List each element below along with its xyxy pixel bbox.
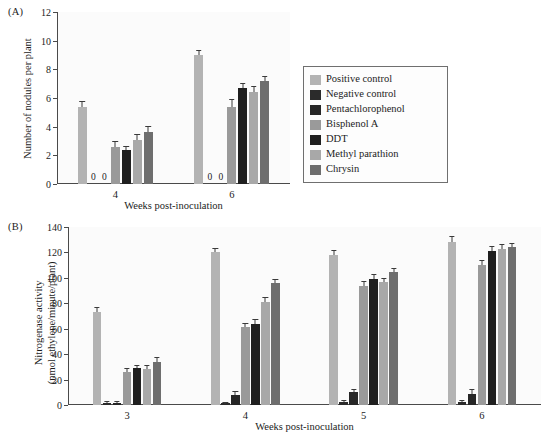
y-axis-tick xyxy=(64,329,68,330)
legend-item[interactable]: Positive control xyxy=(310,72,440,87)
panel-a-plot-area: 024681012004006 xyxy=(57,12,290,184)
y-axis-tick xyxy=(64,252,68,253)
error-bar-cap xyxy=(351,389,356,390)
error-bar xyxy=(127,369,128,372)
error-bar xyxy=(253,87,254,92)
legend-item[interactable]: Bisphenol A xyxy=(310,117,440,132)
error-bar-cap xyxy=(134,134,140,135)
bar xyxy=(133,140,142,184)
error-bar xyxy=(451,237,452,242)
bar xyxy=(389,272,398,406)
bar xyxy=(478,265,487,405)
error-bar-cap xyxy=(341,400,346,401)
x-axis-group-label: 3 xyxy=(125,410,130,421)
error-bar xyxy=(231,100,232,106)
error-bar-cap xyxy=(124,368,129,369)
legend: Positive controlNegative controlPentachl… xyxy=(303,66,448,183)
bar xyxy=(260,81,269,184)
error-bar-cap xyxy=(243,323,248,324)
y-axis-tick-label: 80 xyxy=(52,298,62,309)
zero-value-label: 0 xyxy=(207,172,212,182)
error-bar xyxy=(245,324,246,328)
error-bar-cap xyxy=(229,99,235,100)
bar xyxy=(103,403,112,405)
y-axis-tick-label: 6 xyxy=(46,93,51,104)
y-axis-tick xyxy=(53,41,57,42)
bar xyxy=(194,55,203,184)
error-bar xyxy=(115,142,116,147)
x-axis-group-label: 4 xyxy=(113,189,118,200)
y-axis-tick xyxy=(64,380,68,381)
x-axis-group-label: 5 xyxy=(361,410,366,421)
y-axis-tick-label: 2 xyxy=(46,150,51,161)
error-bar-cap xyxy=(213,248,218,249)
error-bar-cap xyxy=(123,146,129,147)
error-bar-cap xyxy=(79,101,85,102)
bar xyxy=(241,327,250,405)
bar xyxy=(508,247,517,405)
legend-item[interactable]: Methyl parathion xyxy=(310,147,440,162)
y-axis-tick xyxy=(64,227,68,228)
bar xyxy=(211,252,220,405)
error-bar xyxy=(235,392,236,395)
error-bar-cap xyxy=(233,391,238,392)
bar xyxy=(123,372,132,405)
zero-value-label: 0 xyxy=(218,172,223,182)
error-bar xyxy=(353,390,354,393)
error-bar xyxy=(343,401,344,402)
panel-a-ylabel: Number of nodules per plant xyxy=(21,24,34,174)
error-bar xyxy=(471,390,472,393)
error-bar-cap xyxy=(331,250,336,251)
legend-item[interactable]: DDT xyxy=(310,132,440,147)
y-axis-tick xyxy=(53,12,57,13)
error-bar-cap xyxy=(499,244,504,245)
legend-item[interactable]: Pentachlorophenol xyxy=(310,102,440,117)
error-bar-cap xyxy=(381,278,386,279)
legend-item[interactable]: Negative control xyxy=(310,87,440,102)
zero-value-label: 0 xyxy=(91,172,96,182)
error-bar-cap xyxy=(240,83,246,84)
error-bar xyxy=(97,308,98,312)
legend-item[interactable]: Chrysin xyxy=(310,162,440,177)
y-axis-tick-label: 40 xyxy=(52,349,62,360)
bar xyxy=(251,324,260,405)
bar xyxy=(221,403,230,405)
bar xyxy=(271,283,280,405)
error-bar-cap xyxy=(469,389,474,390)
y-axis-tick-label: 60 xyxy=(52,323,62,334)
y-axis-tick xyxy=(53,155,57,156)
y-axis-tick-label: 4 xyxy=(46,121,51,132)
y-axis-tick xyxy=(53,69,57,70)
error-bar xyxy=(501,245,502,249)
error-bar xyxy=(148,127,149,132)
error-bar-cap xyxy=(253,319,258,320)
error-bar-cap xyxy=(154,357,159,358)
error-bar xyxy=(333,251,334,255)
bar xyxy=(329,255,338,405)
y-axis-tick-label: 20 xyxy=(52,374,62,385)
error-bar-cap xyxy=(263,297,268,298)
error-bar-cap xyxy=(391,268,396,269)
error-bar xyxy=(363,282,364,285)
bar xyxy=(349,392,358,405)
bar xyxy=(369,279,378,405)
error-bar-cap xyxy=(94,307,99,308)
panel-b-xlabel: Weeks post-inoculation xyxy=(68,421,541,432)
y-axis-tick xyxy=(53,127,57,128)
error-bar-cap xyxy=(459,400,464,401)
error-bar xyxy=(481,261,482,265)
bar xyxy=(488,251,497,405)
error-bar-cap xyxy=(361,281,366,282)
panel-b-ylabel-line1: Nitrogenase activity xyxy=(33,238,46,408)
error-bar-cap xyxy=(371,274,376,275)
error-bar xyxy=(107,402,108,403)
error-bar-cap xyxy=(104,401,109,402)
panel-b-plot-area: 0204060801001201403456 xyxy=(68,227,541,405)
error-bar xyxy=(137,366,138,368)
bar xyxy=(261,302,270,405)
error-bar xyxy=(511,244,512,248)
bar xyxy=(498,249,507,405)
y-axis-tick-label: 12 xyxy=(41,7,51,18)
x-axis-group-label: 6 xyxy=(229,189,234,200)
y-axis-tick-label: 0 xyxy=(46,179,51,190)
